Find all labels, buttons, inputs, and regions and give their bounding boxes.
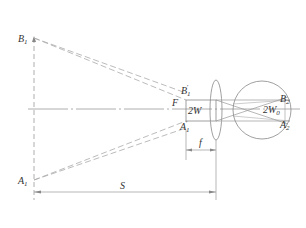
arrowhead-icon xyxy=(209,191,216,194)
label-2W: 2W xyxy=(188,105,203,116)
arrowhead-icon xyxy=(210,149,216,152)
label-B1-prime: B1′ xyxy=(181,83,191,98)
dashed-ray xyxy=(34,128,186,180)
label-2W0: 2W0 xyxy=(263,104,280,117)
eye-circle xyxy=(233,81,291,139)
label-B1: B1 xyxy=(18,33,28,46)
label-S: S xyxy=(120,180,125,191)
dashed-ray xyxy=(34,38,186,100)
dashed-ray xyxy=(34,121,186,180)
dashed-ray xyxy=(34,38,186,93)
arrowhead-icon xyxy=(186,149,192,152)
ray-diagram: B1 A1 B1′ A1′ F 2W B2 A2 2W0 f S xyxy=(0,0,306,228)
arrowhead-icon xyxy=(34,191,41,194)
label-A1: A1 xyxy=(17,175,28,188)
label-F: F xyxy=(171,97,179,108)
label-f: f xyxy=(199,137,203,148)
